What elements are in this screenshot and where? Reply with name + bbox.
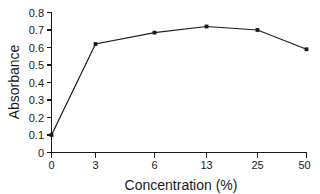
y-axis-tick-labels: 0 0.1 0.2 0.3 0.4 0.5 0.6 0.7 0.8 — [29, 7, 44, 159]
data-point — [256, 28, 260, 32]
y-tick-label: 0.4 — [29, 77, 44, 89]
y-tick-label: 0.5 — [29, 59, 44, 71]
y-tick-label: 0.3 — [29, 94, 44, 106]
y-tick-label: 0.1 — [29, 129, 44, 141]
x-tick-label: 25 — [251, 159, 263, 171]
y-axis-title: Absorbance — [6, 44, 22, 119]
data-point — [94, 42, 98, 46]
x-tick-label: 0 — [48, 159, 54, 171]
x-tick-label: 50 — [298, 159, 310, 171]
x-axis-title: Concentration (%) — [125, 177, 238, 193]
x-tick-label: 3 — [92, 159, 98, 171]
data-point — [153, 31, 157, 35]
y-tick-label: 0.2 — [29, 112, 44, 124]
data-point — [305, 47, 309, 51]
chart-figure: 0 0.1 0.2 0.3 0.4 0.5 0.6 0.7 0.8 0 3 6 … — [0, 0, 320, 194]
line-chart: 0 0.1 0.2 0.3 0.4 0.5 0.6 0.7 0.8 0 3 6 … — [0, 0, 320, 194]
data-point — [205, 25, 209, 29]
y-tick-label: 0.6 — [29, 42, 44, 54]
y-tick-label: 0 — [38, 147, 44, 159]
y-tick-label: 0.7 — [29, 24, 44, 36]
x-tick-label: 6 — [151, 159, 157, 171]
y-tick-label: 0.8 — [29, 7, 44, 19]
x-tick-label: 13 — [200, 159, 212, 171]
data-point — [50, 133, 54, 137]
